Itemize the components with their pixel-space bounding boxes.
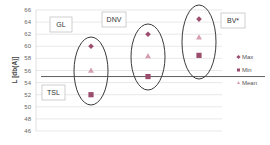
y-axis-label: L [db(A)] xyxy=(11,57,19,84)
tsl-label-box: TSL xyxy=(42,85,65,100)
triangle-icon xyxy=(237,81,240,84)
bv-ellipse xyxy=(182,5,216,79)
max-point-dnv xyxy=(145,31,151,37)
max-point-gl xyxy=(88,44,94,50)
y-tick-label: 60 xyxy=(24,43,31,49)
y-tick-label: 56 xyxy=(24,68,31,74)
y-tick-label: 46 xyxy=(24,128,31,134)
y-tick-label: 48 xyxy=(24,116,31,122)
data-points xyxy=(88,16,202,97)
diamond-icon xyxy=(236,55,240,59)
y-tick-label: 64 xyxy=(24,19,31,25)
dnv-label-box: DNV xyxy=(102,12,126,27)
legend-item-max: Max xyxy=(236,54,253,60)
square-icon xyxy=(237,69,240,72)
gl-label-box: GL xyxy=(50,17,72,32)
y-tick-label: 50 xyxy=(24,104,31,110)
y-tick-label: 52 xyxy=(24,92,31,98)
y-tick-label: 66 xyxy=(24,7,31,13)
bv-label-box: BV* xyxy=(221,13,245,28)
svg-text:Min: Min xyxy=(242,67,252,73)
y-axis-ticks: 4648505254565860626466 xyxy=(24,7,31,134)
gl-label: GL xyxy=(56,21,65,28)
mean-point-bv xyxy=(196,34,202,39)
bv-label: BV* xyxy=(227,17,239,24)
y-tick-label: 54 xyxy=(24,80,31,86)
svg-text:Mean: Mean xyxy=(242,80,257,86)
scatter-chart: 4648505254565860626466 L [db(A)] GL DNV … xyxy=(0,0,270,145)
dnv-label: DNV xyxy=(107,16,122,23)
mean-point-dnv xyxy=(145,53,151,58)
max-point-bv xyxy=(196,16,202,22)
min-point-gl xyxy=(88,92,93,97)
tsl-label: TSL xyxy=(47,89,60,96)
svg-text:Max: Max xyxy=(242,54,253,60)
legend-item-mean: Mean xyxy=(237,80,257,86)
min-point-dnv xyxy=(145,74,150,79)
legend: Max Min Mean xyxy=(236,54,257,86)
y-tick-label: 62 xyxy=(24,31,31,37)
y-tick-label: 58 xyxy=(24,55,31,61)
mean-point-gl xyxy=(88,68,94,73)
legend-item-min: Min xyxy=(237,67,252,73)
min-point-bv xyxy=(196,53,201,58)
